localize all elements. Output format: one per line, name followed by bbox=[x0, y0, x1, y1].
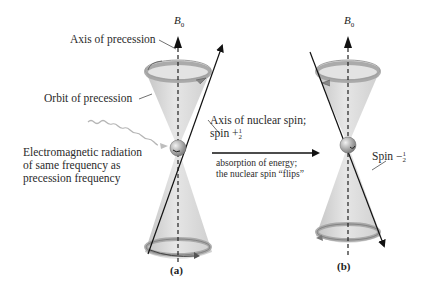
spin-minus-half-label: Spin −12 bbox=[372, 150, 406, 163]
nucleus-b bbox=[340, 137, 356, 153]
fraction-half: 12 bbox=[239, 128, 243, 140]
absorption-line-1: absorption of energy; bbox=[216, 158, 304, 169]
panel-label-b: (b) bbox=[337, 260, 350, 272]
em-radiation-line-2: of same frequency as bbox=[23, 159, 142, 172]
axis-of-nuclear-spin-label: Axis of nuclear spin; spin +12 bbox=[210, 114, 306, 140]
nucleus-a bbox=[170, 140, 186, 156]
nuclear-spin-line-2: spin +12 bbox=[210, 127, 306, 140]
em-radiation-line-1: Electromagnetic radiation bbox=[23, 146, 142, 159]
orbit-of-precession-label: Orbit of precession bbox=[44, 92, 132, 105]
em-radiation-line-3: precession frequency bbox=[23, 172, 142, 185]
absorption-line-2: the nuclear spin “flips” bbox=[216, 169, 304, 180]
nuclear-spin-line-1: Axis of nuclear spin; bbox=[210, 114, 306, 127]
absorption-label: absorption of energy; the nuclear spin “… bbox=[216, 158, 304, 180]
em-radiation-wave bbox=[88, 121, 158, 146]
panel-b bbox=[310, 36, 386, 255]
panel-label-a: (a) bbox=[170, 264, 183, 276]
b0-label-a: B0 bbox=[174, 14, 184, 29]
axis-of-precession-label: Axis of precession bbox=[70, 33, 156, 46]
em-radiation-label: Electromagnetic radiation of same freque… bbox=[23, 146, 142, 185]
b0-label-b: B0 bbox=[344, 14, 354, 29]
b0-arrowhead-a bbox=[174, 36, 182, 48]
b0-arrowhead-b bbox=[344, 36, 352, 48]
nmr-spin-flip-diagram bbox=[0, 0, 436, 281]
fraction-half-b: 12 bbox=[402, 151, 406, 163]
